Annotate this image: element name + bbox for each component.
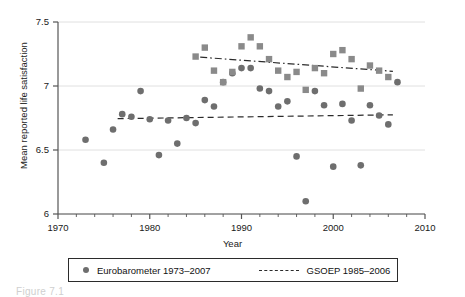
gridlines bbox=[58, 22, 425, 214]
chart-legend: Eurobarometer 1973–2007 GSOEP 1985–2006 bbox=[68, 258, 398, 282]
dashed-line-icon bbox=[259, 270, 299, 271]
y-axis-label: Mean reported life satisfaction bbox=[18, 26, 29, 186]
data-markers bbox=[82, 34, 401, 204]
x-tick-label: 1990 bbox=[231, 222, 252, 233]
chart-plot-area bbox=[0, 0, 465, 297]
x-tick-label: 1970 bbox=[47, 222, 68, 233]
y-tick-label: 7.5 bbox=[0, 16, 49, 27]
legend-label-eurobarometer: Eurobarometer 1973–2007 bbox=[97, 265, 211, 276]
circle-marker-icon bbox=[83, 267, 89, 273]
legend-label-gsoep: GSOEP 1985–2006 bbox=[307, 265, 391, 276]
figure-caption: Figure 7.1 bbox=[16, 286, 64, 297]
x-axis-label: Year bbox=[0, 238, 465, 249]
x-tick-label: 2000 bbox=[323, 222, 344, 233]
axis-ticks bbox=[53, 22, 425, 219]
legend-item-eurobarometer: Eurobarometer 1973–2007 bbox=[83, 265, 211, 276]
legend-item-gsoep: GSOEP 1985–2006 bbox=[259, 265, 391, 276]
x-tick-label: 1980 bbox=[139, 222, 160, 233]
y-tick-label: 6.5 bbox=[0, 144, 49, 155]
trend-lines bbox=[118, 57, 393, 118]
axis-lines bbox=[58, 22, 425, 214]
y-tick-label: 7 bbox=[0, 80, 49, 91]
y-tick-label: 6 bbox=[0, 208, 49, 219]
x-tick-label: 2010 bbox=[414, 222, 435, 233]
figure-container: Mean reported life satisfaction Year 66.… bbox=[0, 0, 465, 297]
